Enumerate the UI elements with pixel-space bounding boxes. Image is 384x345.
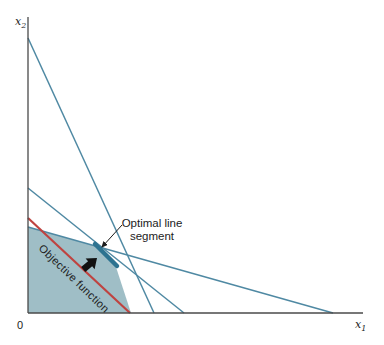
origin-label: 0 (17, 319, 23, 331)
chart-layer (28, 17, 363, 313)
optimal-segment-label-line1: Optimal line (122, 217, 183, 229)
lp-figure: x2 x1 0 Optimal line segment Objective f… (0, 0, 384, 345)
x-axis-label-sub: 1 (361, 324, 366, 333)
y-axis-label: x2 (15, 15, 26, 30)
optimal-segment-label-line2: segment (130, 230, 175, 242)
lp-plot-canvas: x2 x1 0 Optimal line segment Objective f… (0, 0, 384, 345)
x-axis-label: x1 (355, 318, 366, 333)
y-axis-label-sub: 2 (20, 21, 26, 30)
